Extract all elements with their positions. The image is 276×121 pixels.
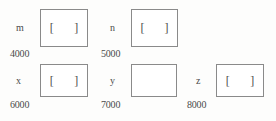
- value-box-n: []: [131, 9, 178, 47]
- bracket-close-icon-z: ]: [250, 75, 254, 87]
- value-box-m: []: [40, 9, 88, 47]
- address-label-y: 7000: [101, 100, 120, 110]
- bracket-open-icon-x: [: [50, 75, 54, 87]
- bracket-close-icon-x: ]: [74, 75, 78, 87]
- bracket-pair-n: []: [141, 22, 169, 34]
- address-label-m: 4000: [10, 49, 29, 59]
- bracket-pair-x: []: [50, 75, 79, 87]
- box-content-x: []: [41, 75, 87, 87]
- value-box-y: [131, 64, 177, 97]
- address-label-z: 8000: [187, 100, 206, 110]
- box-content-m: []: [41, 22, 87, 34]
- bracket-open-icon-z: [: [226, 75, 230, 87]
- box-content-n: []: [132, 22, 177, 34]
- value-box-x: []: [40, 64, 88, 97]
- variable-label-n: n: [110, 23, 115, 33]
- variable-label-y: y: [110, 76, 115, 86]
- bracket-pair-z: []: [226, 75, 255, 87]
- variable-label-m: m: [16, 23, 24, 33]
- bracket-open-icon-m: [: [50, 22, 54, 34]
- bracket-open-icon-n: [: [141, 22, 145, 34]
- box-content-z: []: [217, 75, 263, 87]
- variable-label-z: z: [196, 76, 200, 86]
- address-label-n: 5000: [101, 49, 120, 59]
- bracket-pair-m: []: [50, 22, 79, 34]
- memory-cell-diagram: m[]4000n[]5000x[]6000y7000z[]8000: [0, 0, 276, 121]
- value-box-z: []: [216, 64, 264, 97]
- bracket-close-icon-n: ]: [164, 22, 168, 34]
- variable-label-x: x: [16, 76, 21, 86]
- address-label-x: 6000: [10, 100, 29, 110]
- bracket-close-icon-m: ]: [74, 22, 78, 34]
